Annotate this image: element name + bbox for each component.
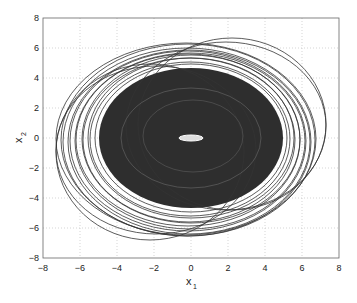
svg-text:8: 8	[336, 263, 341, 273]
svg-text:2: 2	[225, 263, 230, 273]
svg-text:0: 0	[34, 133, 39, 143]
svg-text:−6: −6	[75, 263, 85, 273]
x-axis-label: x 1	[186, 275, 197, 290]
x-tick-labels: −8 −6 −4 −2 0 2 4 6 8	[38, 263, 342, 273]
svg-text:−4: −4	[112, 263, 122, 273]
svg-text:6: 6	[299, 263, 304, 273]
svg-text:−8: −8	[29, 253, 39, 263]
phase-portrait-chart: −8 −6 −4 −2 0 2 4 6 8 8 6 4 2 0 −2 −4 −6…	[0, 0, 357, 303]
svg-text:4: 4	[262, 263, 267, 273]
y-tick-labels: 8 6 4 2 0 −2 −4 −6 −8	[29, 13, 39, 263]
svg-text:2: 2	[20, 132, 27, 136]
svg-text:x: x	[12, 137, 24, 143]
svg-text:−2: −2	[29, 163, 39, 173]
svg-text:−8: −8	[38, 263, 48, 273]
svg-text:4: 4	[34, 73, 39, 83]
svg-text:6: 6	[34, 43, 39, 53]
svg-text:−2: −2	[149, 263, 159, 273]
svg-text:−4: −4	[29, 193, 39, 203]
svg-text:2: 2	[34, 103, 39, 113]
trajectory	[56, 38, 326, 240]
svg-text:1: 1	[193, 283, 197, 290]
svg-text:0: 0	[188, 263, 193, 273]
svg-text:−6: −6	[29, 223, 39, 233]
svg-text:x: x	[186, 275, 192, 287]
y-axis-label: x 2	[12, 132, 27, 143]
svg-text:8: 8	[34, 13, 39, 23]
